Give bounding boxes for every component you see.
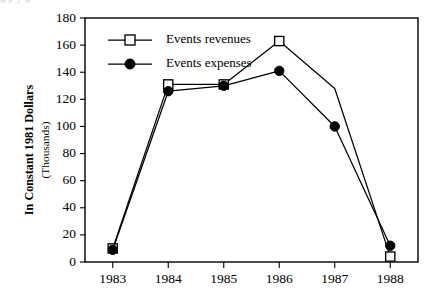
y-tick-label: 100: [56, 118, 77, 133]
y-axis-title-main: In Constant 1981 Dollars: [22, 85, 36, 216]
data-point-marker-circle: [108, 245, 117, 254]
y-tick-label: 80: [63, 145, 77, 160]
y-tick-label: 40: [63, 199, 77, 214]
data-point-marker-circle: [219, 81, 228, 90]
data-point-marker-square: [386, 252, 395, 261]
x-tick-label: 1983: [99, 271, 126, 286]
chart-figure: g p y g 020406080100120140160180 1983198…: [0, 0, 440, 301]
legend-label: Events expenses: [166, 55, 252, 70]
x-tick-label: 1986: [266, 271, 293, 286]
y-tick-label: 60: [63, 172, 77, 187]
y-tick-label: 140: [56, 64, 77, 79]
data-point-marker-circle: [275, 66, 284, 75]
data-point-marker-circle: [164, 87, 173, 96]
x-tick-label: 1985: [210, 271, 237, 286]
y-tick-label: 180: [56, 10, 77, 25]
scan-artifact-strip: g p y g: [0, 0, 440, 7]
y-tick-label: 120: [56, 91, 77, 106]
data-point-marker-circle: [330, 122, 339, 131]
y-tick-label: 160: [56, 37, 77, 52]
line-chart: 020406080100120140160180 198319841985198…: [0, 0, 440, 301]
legend-label: Events revenues: [166, 31, 251, 46]
data-point-marker-square: [275, 36, 284, 45]
x-tick-label: 1987: [321, 271, 348, 286]
x-tick-label: 1984: [155, 271, 182, 286]
y-tick-label: 20: [63, 226, 77, 241]
legend-marker-square: [125, 35, 135, 45]
y-axis-title-sub: (Thousands): [39, 121, 52, 178]
y-tick-label: 0: [69, 254, 76, 269]
legend-marker-circle: [125, 59, 135, 69]
scan-artifact-text: g p y g: [0, 0, 30, 3]
x-tick-label: 1988: [377, 271, 404, 286]
data-point-marker-circle: [386, 241, 395, 250]
